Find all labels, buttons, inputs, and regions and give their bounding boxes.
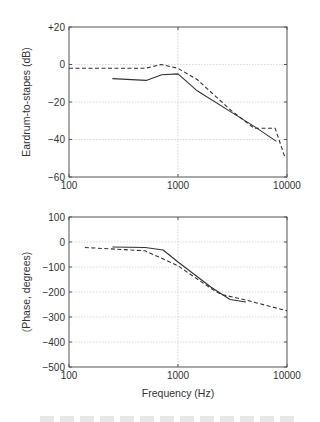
x-tick-label: 10000 (273, 180, 301, 191)
y-tick-label: −200 (42, 287, 65, 298)
x-tick-label: 100 (61, 370, 78, 381)
x-tick-label: 1000 (167, 370, 190, 381)
y-tick-label: −300 (42, 312, 65, 323)
series-dashed-line (69, 65, 285, 157)
y-axis-label: (Phase, degrees) (20, 252, 32, 333)
caption-cutoff (40, 416, 300, 422)
plot-1: +200−20−40−60100100010000Eardrum-to-stap… (20, 22, 301, 192)
y-tick-label: 0 (59, 59, 65, 70)
series-solid-line (112, 74, 276, 141)
y-tick-label: +20 (48, 22, 65, 33)
series-dashed-line (85, 248, 287, 311)
frequency-response-figure: +200−20−40−60100100010000Eardrum-to-stap… (0, 0, 320, 422)
series-solid-line (112, 247, 246, 302)
y-tick-label: −40 (48, 134, 65, 145)
x-tick-label: 1000 (167, 180, 190, 191)
x-axis-label: Frequency (Hz) (142, 387, 214, 399)
y-tick-label: −400 (42, 337, 65, 348)
x-tick-label: 100 (61, 180, 78, 191)
y-tick-label: 100 (48, 212, 65, 223)
y-tick-label: −100 (42, 262, 65, 273)
x-tick-label: 10000 (273, 370, 301, 381)
y-tick-label: 0 (59, 237, 65, 248)
plot-2: 1000−100−200−300−400−500100100010000(Pha… (20, 212, 301, 400)
y-tick-label: −20 (48, 97, 65, 108)
y-axis-label: Eardrum-to-stapes (dB) (20, 47, 32, 157)
